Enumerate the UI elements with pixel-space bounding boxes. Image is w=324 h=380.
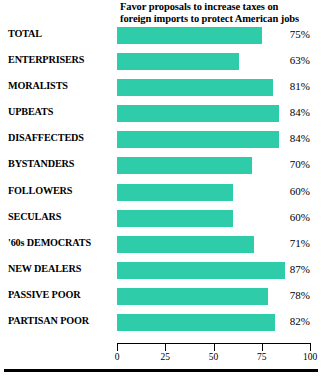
axis-tick-label: 75 [250, 352, 274, 362]
axis-tick [310, 343, 311, 351]
chart-row: PARTISAN POOR82% [0, 312, 324, 338]
chart-row: NEW DEALERS87% [0, 260, 324, 286]
category-label: PASSIVE POOR [8, 289, 80, 300]
bar [117, 157, 252, 174]
bar [117, 27, 262, 44]
axis-tick-label: 0 [105, 352, 129, 362]
axis-tick [214, 343, 215, 351]
axis-tick [262, 343, 263, 351]
chart-rows: TOTAL75%ENTERPRISERS63%MORALISTS81%UPBEA… [0, 25, 324, 338]
bar [117, 79, 273, 96]
chart-title-line-2: foreign imports to protect American jobs [120, 13, 320, 25]
chart-title: Favor proposals to increase taxes on for… [120, 1, 320, 24]
chart-row: FOLLOWERS60% [0, 182, 324, 208]
bar [117, 210, 233, 227]
axis-tick-label: 25 [153, 352, 177, 362]
bar [117, 53, 239, 70]
x-axis: 0255075100 [117, 343, 310, 352]
category-label: FOLLOWERS [8, 185, 72, 196]
value-label: 84% [278, 132, 310, 144]
value-label: 60% [278, 185, 310, 197]
chart-row: UPBEATS84% [0, 103, 324, 129]
category-label: TOTAL [8, 28, 42, 39]
bar [117, 184, 233, 201]
bar [117, 105, 279, 122]
bar-chart: Favor proposals to increase taxes on for… [0, 0, 324, 380]
chart-row: SECULARS60% [0, 208, 324, 234]
value-label: 75% [278, 28, 310, 40]
chart-title-line-1: Favor proposals to increase taxes on [120, 1, 320, 13]
value-label: 71% [278, 237, 310, 249]
axis-tick-label: 50 [202, 352, 226, 362]
category-label: '60s DEMOCRATS [8, 237, 91, 248]
chart-row: PASSIVE POOR78% [0, 286, 324, 312]
bar [117, 288, 268, 305]
value-label: 78% [278, 289, 310, 301]
value-label: 87% [278, 263, 310, 275]
bar [117, 314, 275, 331]
value-label: 60% [278, 211, 310, 223]
bar [117, 236, 254, 253]
value-label: 70% [278, 158, 310, 170]
bottom-rule [4, 369, 318, 372]
value-label: 81% [278, 80, 310, 92]
category-label: ENTERPRISERS [8, 54, 84, 65]
value-label: 63% [278, 54, 310, 66]
chart-row: TOTAL75% [0, 25, 324, 51]
axis-tick [117, 343, 118, 351]
axis-tick [165, 343, 166, 351]
category-label: NEW DEALERS [8, 263, 81, 274]
chart-row: '60s DEMOCRATS71% [0, 234, 324, 260]
axis-tick-label: 100 [298, 352, 322, 362]
category-label: UPBEATS [8, 106, 53, 117]
bar [117, 262, 285, 279]
category-label: MORALISTS [8, 80, 68, 91]
chart-row: DISAFFECTEDS84% [0, 129, 324, 155]
category-label: BYSTANDERS [8, 158, 74, 169]
category-label: SECULARS [8, 211, 61, 222]
value-label: 84% [278, 106, 310, 118]
chart-row: ENTERPRISERS63% [0, 51, 324, 77]
bar [117, 131, 279, 148]
category-label: DISAFFECTEDS [8, 132, 84, 143]
category-label: PARTISAN POOR [8, 315, 89, 326]
chart-row: MORALISTS81% [0, 77, 324, 103]
chart-row: BYSTANDERS70% [0, 155, 324, 181]
value-label: 82% [278, 315, 310, 327]
